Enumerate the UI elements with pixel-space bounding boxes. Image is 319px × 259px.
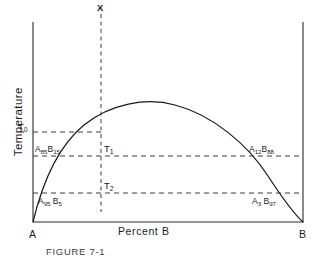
x-axis-title: Percent B [118, 226, 170, 237]
isotherm-label-t2-sub: 2 [110, 185, 114, 192]
phase-diagram-figure: Temperature Percent B A B X T0 T1 T2 A85… [0, 0, 319, 259]
composition-right-t2-a: A [252, 196, 258, 206]
composition-left-t2-b: B [53, 196, 59, 206]
isotherm-label-t2-base: T [104, 180, 110, 191]
composition-right-t2-b-sub: 97 [269, 200, 276, 207]
composition-right-t2-a-sub: 3 [258, 200, 261, 207]
composition-left-t1-a: A [35, 144, 41, 154]
composition-left-t2-a: A [38, 196, 44, 206]
composition-label-right-t2: A3 B97 [252, 197, 276, 206]
composition-right-t1-b-sub: 88 [267, 148, 274, 155]
isotherm-label-t1-sub: 1 [110, 148, 114, 155]
composition-left-t2-a-sub: 95 [44, 200, 51, 207]
isotherm-label-t1: T1 [104, 144, 114, 154]
figure-caption: FIGURE 7-1 [46, 247, 105, 257]
axis-endpoint-label-a: A [29, 229, 36, 240]
composition-label-right-t1: A12B88 [249, 145, 274, 154]
isotherm-label-t0-base: T [18, 121, 24, 132]
composition-left-t1-a-sub: 85 [41, 148, 48, 155]
composition-line-label-x: X [97, 3, 103, 13]
composition-right-t1-a-sub: 12 [255, 148, 262, 155]
composition-label-left-t2: A95 B5 [38, 197, 62, 206]
isotherm-label-t2: T2 [104, 181, 114, 191]
composition-label-left-t1: A85B15 [35, 145, 60, 154]
axis-endpoint-label-b: B [299, 229, 306, 240]
composition-left-t1-b-sub: 15 [53, 148, 60, 155]
isotherm-label-t1-base: T [104, 143, 110, 154]
composition-left-t2-b-sub: 5 [59, 200, 62, 207]
isotherm-label-t0: T0 [18, 122, 28, 132]
isotherm-label-t0-sub: 0 [24, 126, 28, 133]
phase-diagram-plot [0, 0, 319, 259]
composition-right-t1-a: A [249, 144, 255, 154]
